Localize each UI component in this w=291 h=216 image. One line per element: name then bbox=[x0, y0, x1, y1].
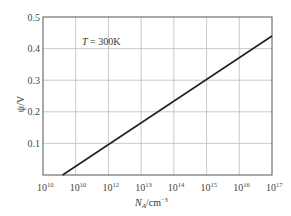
x-tick-label: 1017 bbox=[266, 181, 283, 193]
y-tick-label: 0.2 bbox=[28, 106, 41, 117]
y-tick-label: 0.1 bbox=[28, 138, 41, 149]
gridlines bbox=[43, 17, 272, 175]
plot-frame bbox=[43, 17, 272, 175]
chart: 0.10.20.30.40.5 101010101012101310141015… bbox=[0, 0, 291, 216]
x-tick-labels: 10101010101210131014101510161017 bbox=[37, 181, 283, 193]
x-tick-label: 1016 bbox=[233, 181, 250, 193]
x-tick-label: 1010 bbox=[37, 181, 54, 193]
x-tick-label: 1013 bbox=[135, 181, 152, 193]
y-tick-label: 0.3 bbox=[28, 75, 41, 86]
temperature-annotation: T = 300K bbox=[82, 36, 121, 47]
x-tick-label: 1012 bbox=[102, 181, 119, 193]
data-line bbox=[63, 36, 272, 175]
x-tick-label: 1015 bbox=[201, 181, 218, 193]
y-tick-labels: 0.10.20.30.40.5 bbox=[28, 12, 41, 149]
x-tick-label: 1010 bbox=[70, 181, 87, 193]
x-tick-label: 1014 bbox=[168, 181, 185, 193]
y-axis-label: ψ/V bbox=[15, 95, 26, 112]
y-tick-label: 0.4 bbox=[28, 43, 41, 54]
x-axis-label: NA/cm−3 bbox=[134, 196, 168, 210]
y-tick-label: 0.5 bbox=[28, 12, 41, 23]
